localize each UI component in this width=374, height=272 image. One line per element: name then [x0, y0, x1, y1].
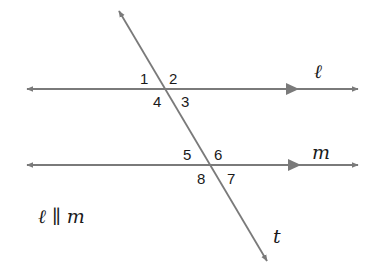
angle-4-label: 4 [153, 93, 161, 110]
angle-2-label: 2 [169, 70, 177, 87]
angle-6-label: 6 [214, 146, 222, 163]
angle-5-label: 5 [183, 146, 191, 163]
line-m-label: m [312, 141, 330, 163]
line-m [27, 159, 358, 171]
angle-8-label: 8 [197, 170, 205, 187]
line-l [27, 83, 358, 95]
parallel-relation: ℓ ∥ m [38, 205, 85, 227]
line-t-label: t [273, 225, 281, 247]
geometry-diagram: 1 2 4 3 5 6 8 7 ℓ m t ℓ ∥ m [0, 0, 374, 272]
angle-7-label: 7 [227, 170, 235, 187]
line-l-label: ℓ [314, 60, 322, 82]
angle-3-label: 3 [181, 93, 189, 110]
angle-1-label: 1 [140, 70, 148, 87]
parallel-arrow-l-icon [286, 83, 299, 95]
parallel-arrow-m-icon [288, 159, 301, 171]
transversal-t [119, 11, 267, 261]
